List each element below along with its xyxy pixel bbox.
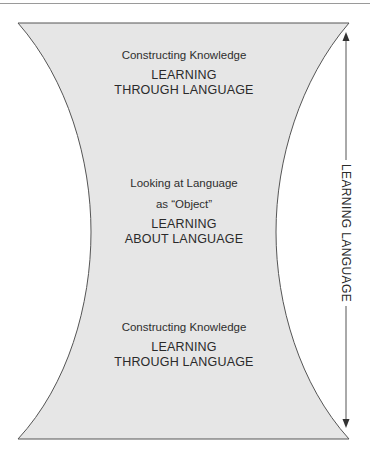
top-section: Constructing Knowledge LEARNING THROUGH … <box>84 48 284 98</box>
middle-subtitle-line2: as “Object” <box>84 197 284 211</box>
middle-title-line2: ABOUT LANGUAGE <box>84 232 284 247</box>
bottom-subtitle: Constructing Knowledge <box>84 320 284 334</box>
top-title-line2: THROUGH LANGUAGE <box>84 83 284 98</box>
middle-title-line1: LEARNING <box>84 217 284 232</box>
bottom-title-line1: LEARNING <box>84 340 284 355</box>
bottom-title-line2: THROUGH LANGUAGE <box>84 355 284 370</box>
top-title-line1: LEARNING <box>84 68 284 83</box>
side-axis-label-container: LEARNING LANGUAGE <box>339 163 353 303</box>
top-subtitle: Constructing Knowledge <box>84 48 284 62</box>
bottom-section: Constructing Knowledge LEARNING THROUGH … <box>84 320 284 370</box>
middle-section: Looking at Language as “Object” LEARNING… <box>84 176 284 247</box>
middle-subtitle-line1: Looking at Language <box>84 176 284 190</box>
side-axis-label: LEARNING LANGUAGE <box>339 161 353 305</box>
